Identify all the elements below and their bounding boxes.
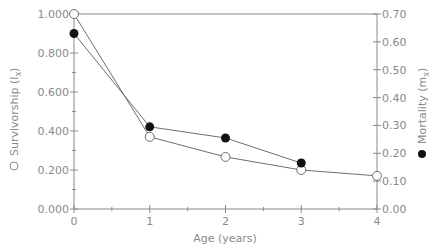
open-circle-marker: [70, 10, 79, 19]
left-tick-label: 0.400: [38, 125, 70, 138]
filled-circle-marker: [221, 133, 230, 142]
x-tick-label: 4: [374, 215, 381, 228]
right-tick-label: 0.40: [382, 92, 407, 105]
svg-text:Mortality (mx): Mortality (mx): [416, 68, 431, 144]
left-tick-label: 0.800: [38, 47, 70, 60]
left-tick-label: 1.000: [38, 8, 70, 21]
svg-text:Survivorship (lx): Survivorship (lx): [8, 68, 23, 156]
filled-circle-marker: [145, 122, 154, 131]
x-tick-label: 2: [222, 215, 229, 228]
right-axis-label: Mortality (mx): [416, 68, 431, 158]
right-y-axis: 0.000.100.200.300.400.500.600.70: [373, 8, 407, 216]
left-axis-label-text: Survivorship (l: [8, 77, 21, 156]
open-circle-legend-icon: [10, 162, 18, 170]
x-axis: 01234: [71, 205, 381, 228]
right-tick-label: 0.60: [382, 36, 407, 49]
left-axis-label: Survivorship (lx): [8, 68, 23, 170]
open-circle-marker: [145, 132, 154, 141]
x-axis-label: Age (years): [193, 232, 257, 245]
right-tick-label: 0.20: [382, 147, 407, 160]
survivorship-series: [70, 10, 382, 181]
plot-frame: [74, 14, 377, 209]
right-tick-label: 0.30: [382, 119, 407, 132]
x-tick-label: 0: [71, 215, 78, 228]
plot-border: [74, 14, 377, 209]
right-tick-label: 0.50: [382, 64, 407, 77]
survivorship-mortality-chart: 0.0000.2000.4000.6000.8001.000 0.000.100…: [0, 0, 440, 250]
left-tick-label: 0.200: [38, 164, 70, 177]
left-y-axis: 0.0000.2000.4000.6000.8001.000: [38, 8, 79, 216]
x-tick-label: 3: [298, 215, 305, 228]
open-circle-marker: [373, 171, 382, 180]
open-circle-marker: [221, 152, 230, 161]
right-tick-label: 0.00: [382, 203, 407, 216]
filled-circle-legend-icon: [418, 150, 426, 158]
left-tick-label: 0.000: [38, 203, 70, 216]
right-tick-label: 0.70: [382, 8, 407, 21]
left-tick-label: 0.600: [38, 86, 70, 99]
data-series: [70, 10, 382, 181]
x-tick-label: 1: [146, 215, 153, 228]
right-axis-label-text: Mortality (m: [416, 77, 429, 144]
right-tick-label: 0.10: [382, 175, 407, 188]
filled-circle-marker: [297, 159, 306, 168]
filled-circle-marker: [70, 29, 79, 38]
